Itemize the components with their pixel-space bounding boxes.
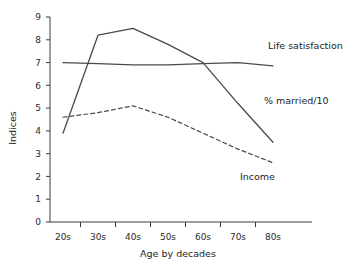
x-axis-title: Age by decades xyxy=(140,248,216,259)
y-tick-label-3: 3 xyxy=(35,149,41,159)
x-tick-label-50s: 50s xyxy=(160,232,176,242)
x-tick-label-30s: 30s xyxy=(90,232,106,242)
series-annotation-income: Income xyxy=(240,171,275,182)
y-tick-label-4: 4 xyxy=(35,126,41,136)
y-tick-label-2: 2 xyxy=(35,172,41,182)
x-tick-label-80s: 80s xyxy=(265,232,281,242)
x-axis-ticks xyxy=(81,222,256,227)
y-axis-title: Indices xyxy=(7,111,18,145)
y-tick-label-1: 1 xyxy=(35,194,41,204)
y-tick-label-8: 8 xyxy=(35,35,41,45)
chart-container: 0 1 2 3 4 5 6 7 8 9 20s 30s 40s 50s 60s … xyxy=(0,0,356,268)
y-tick-label-6: 6 xyxy=(35,81,41,91)
x-tick-label-60s: 60s xyxy=(195,232,211,242)
series-annotation-life-satisfaction: Life satisfaction xyxy=(268,40,343,51)
series-line-income xyxy=(63,106,273,163)
y-tick-label-9: 9 xyxy=(35,12,41,22)
series-annotation-married: % married/10 xyxy=(264,95,329,106)
x-tick-label-40s: 40s xyxy=(125,232,141,242)
x-tick-label-20s: 20s xyxy=(55,232,71,242)
y-tick-label-0: 0 xyxy=(35,217,41,227)
y-tick-label-5: 5 xyxy=(35,103,41,113)
series-line-married xyxy=(63,28,273,142)
y-axis-ticks xyxy=(46,17,50,222)
x-tick-label-70s: 70s xyxy=(230,232,246,242)
series-line-life-satisfaction xyxy=(63,63,273,66)
y-tick-label-7: 7 xyxy=(35,58,41,68)
line-chart: 0 1 2 3 4 5 6 7 8 9 20s 30s 40s 50s 60s … xyxy=(0,0,356,268)
